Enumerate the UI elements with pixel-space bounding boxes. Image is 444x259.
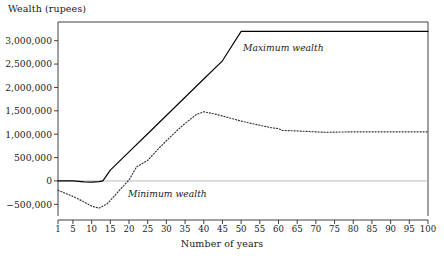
series-line-maximum-wealth (58, 31, 428, 182)
x-axis-title: Number of years (0, 238, 444, 249)
series-label-maximum-wealth: Maximum wealth (243, 42, 324, 53)
y-axis-tick-marks (54, 41, 58, 205)
series-label-minimum-wealth: Minimum wealth (128, 188, 207, 199)
data-series-group (58, 31, 428, 208)
plot-area (0, 0, 444, 259)
wealth-line-chart: Wealth (rupees) 3,000,0002,500,0002,000,… (0, 0, 444, 259)
x-axis-tick-marks (58, 220, 428, 224)
series-line-minimum-wealth (58, 112, 428, 208)
